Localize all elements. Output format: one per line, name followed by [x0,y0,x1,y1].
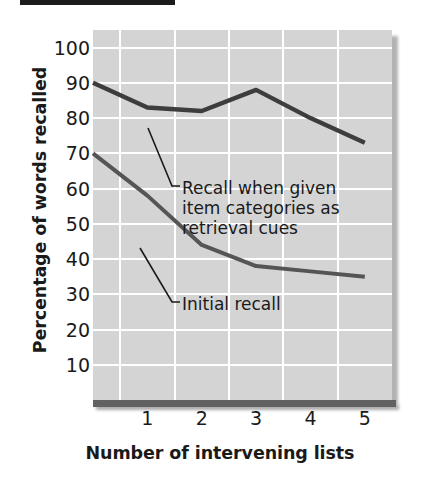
leader-line-initial-recall [140,248,180,302]
cued-recall-annotation-label: Recall when given item categories as ret… [182,178,340,238]
initial-recall-annotation-label: Initial recall [182,294,281,314]
data-lines-overlay [0,0,440,480]
data-line-cued-recall [93,83,365,143]
chart-figure: Percentage of words recalled 10090807060… [0,0,440,480]
leader-line-cued-recall [148,128,180,186]
